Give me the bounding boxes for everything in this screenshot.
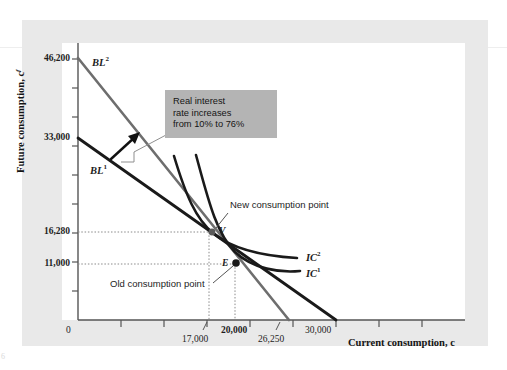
x-tick-label-26250: 26,250 xyxy=(258,334,284,344)
curve-label-bl1-superscript: 1 xyxy=(103,163,107,171)
curve-label-bl1-text: BL xyxy=(90,165,103,176)
curve-label-ic1: IC1 xyxy=(306,266,321,279)
y-tick-label-11000: 11,000 xyxy=(18,258,70,268)
point-label-v: V xyxy=(219,226,225,236)
curve-label-bl1: BL1 xyxy=(90,163,107,176)
callout-line-3: from 10% to 76% xyxy=(173,119,270,131)
interest-rate-callout: Real interest rate increases from 10% to… xyxy=(165,90,277,138)
chart-svg xyxy=(0,0,507,370)
point-marker-v xyxy=(209,229,216,236)
old-consumption-point-caption: Old consumption point xyxy=(110,278,205,289)
indifference-curve-ic1 xyxy=(196,155,300,271)
y-tick-label-16280: 16,280 xyxy=(18,226,70,236)
figure-container: Future consumption, cf 46,200 33,000 16,… xyxy=(0,0,507,370)
curve-label-ic2-text: IC xyxy=(306,252,317,263)
point-marker-e xyxy=(232,259,240,267)
curve-label-ic1-text: IC xyxy=(306,268,317,279)
guide-lines xyxy=(78,232,235,320)
point-label-e: E xyxy=(222,258,228,268)
curve-label-bl2-superscript: 2 xyxy=(105,55,109,63)
curve-label-ic2: IC2 xyxy=(306,250,321,263)
curve-label-ic2-superscript: 2 xyxy=(317,250,321,258)
callout-line-2: rate increases xyxy=(173,108,270,120)
x-tick-label-0: 0 xyxy=(66,325,71,335)
y-tick-label-46200: 46,200 xyxy=(18,53,70,63)
page-number: 6 xyxy=(1,352,5,361)
y-axis-title-superscript: f xyxy=(14,70,22,72)
old-point-leader xyxy=(213,266,233,283)
x-tick-label-30000: 30,000 xyxy=(305,325,331,335)
curve-label-ic1-superscript: 1 xyxy=(317,266,321,274)
callout-line-1: Real interest xyxy=(173,96,270,108)
curve-label-bl2-text: BL xyxy=(92,57,105,68)
y-tick-label-33000: 33,000 xyxy=(18,132,70,142)
curve-label-bl2: BL2 xyxy=(92,55,109,68)
x-axis-ticks xyxy=(121,320,422,327)
y-axis-title: Future consumption, cf xyxy=(14,61,27,181)
x-tick-label-17000: 17,000 xyxy=(182,334,208,344)
y-axis-ticks xyxy=(72,59,78,291)
shift-arrow xyxy=(111,137,135,159)
y-axis-title-text: Future consumption, c xyxy=(15,72,26,173)
x-tick-label-20000: 20,000 xyxy=(221,325,247,335)
x-axis-title: Current consumption, c xyxy=(348,337,455,348)
new-consumption-point-caption: New consumption point xyxy=(230,199,329,210)
